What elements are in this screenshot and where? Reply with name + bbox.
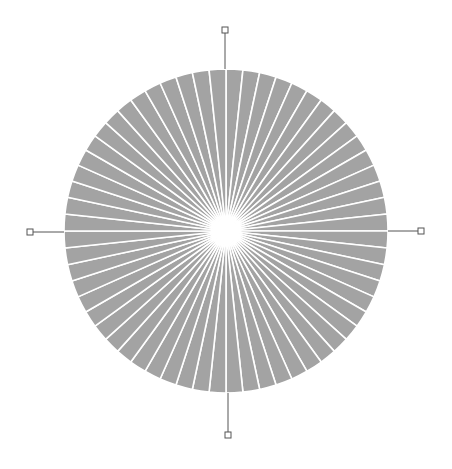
pie-chart-canvas[interactable] <box>0 0 452 469</box>
resize-handle-top[interactable] <box>222 27 228 33</box>
resize-handle-left[interactable] <box>27 229 33 235</box>
pie-chart[interactable] <box>0 0 452 469</box>
pie-slices <box>64 69 388 393</box>
pie-center-hub <box>214 219 238 243</box>
resize-handle-right[interactable] <box>418 228 424 234</box>
resize-handle-bottom[interactable] <box>225 432 231 438</box>
